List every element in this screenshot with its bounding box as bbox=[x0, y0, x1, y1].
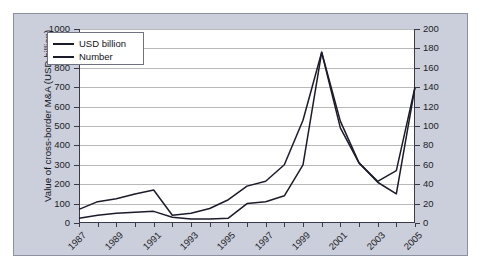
x-tick-mark bbox=[98, 223, 99, 227]
y-tick-label-left: 600 bbox=[37, 102, 70, 112]
y-tick-label-right: 160 bbox=[423, 63, 449, 73]
x-tick-mark bbox=[359, 223, 360, 227]
y-tick-label-right: 100 bbox=[423, 121, 449, 131]
x-tick-mark bbox=[116, 223, 117, 227]
x-tick-mark bbox=[210, 223, 211, 227]
x-tick-mark bbox=[191, 223, 192, 227]
series-line bbox=[79, 52, 415, 219]
x-tick-mark bbox=[247, 223, 248, 227]
legend: USD billion Number bbox=[47, 32, 144, 65]
x-tick-mark bbox=[415, 223, 416, 227]
x-tick-label: 1999 bbox=[285, 230, 312, 257]
x-tick-label: 2005 bbox=[397, 230, 424, 257]
x-tick-mark bbox=[340, 223, 341, 227]
legend-item-number: Number bbox=[53, 50, 113, 63]
y-tick-mark bbox=[415, 165, 420, 166]
y-tick-label-right: 0 bbox=[423, 218, 449, 228]
y-tick-mark bbox=[415, 204, 420, 205]
y-tick-label-left: 700 bbox=[37, 82, 70, 92]
y-tick-mark bbox=[415, 145, 420, 146]
y-tick-mark bbox=[415, 126, 420, 127]
x-tick-mark bbox=[322, 223, 323, 227]
x-tick-mark bbox=[378, 223, 379, 227]
x-tick-label: 2001 bbox=[323, 230, 350, 257]
y-tick-mark bbox=[74, 29, 79, 30]
x-tick-mark bbox=[284, 223, 285, 227]
y-tick-label-right: 120 bbox=[423, 102, 449, 112]
y-tick-mark bbox=[415, 48, 420, 49]
y-tick-label-right: 200 bbox=[423, 24, 449, 34]
y-tick-label-left: 300 bbox=[37, 160, 70, 170]
x-tick-label: 1991 bbox=[136, 230, 163, 257]
x-tick-label: 1987 bbox=[61, 230, 88, 257]
y-tick-label-right: 20 bbox=[423, 199, 449, 209]
y-tick-label-right: 140 bbox=[423, 82, 449, 92]
y-tick-mark bbox=[74, 87, 79, 88]
x-tick-label: 1995 bbox=[211, 230, 238, 257]
x-tick-label: 2003 bbox=[360, 230, 387, 257]
legend-line-icon bbox=[53, 43, 74, 45]
y-tick-mark bbox=[74, 165, 79, 166]
y-tick-mark bbox=[415, 184, 420, 185]
chart-figure: Value of cross-border M&A (USD billion) … bbox=[13, 13, 468, 256]
y-tick-mark bbox=[74, 184, 79, 185]
legend-label: USD billion bbox=[79, 39, 126, 49]
y-tick-label-right: 80 bbox=[423, 140, 449, 150]
x-tick-mark bbox=[303, 223, 304, 227]
y-tick-mark bbox=[74, 107, 79, 108]
y-tick-mark bbox=[415, 107, 420, 108]
x-tick-mark bbox=[79, 223, 80, 227]
y-tick-label-left: 0 bbox=[37, 218, 70, 228]
y-tick-mark bbox=[74, 145, 79, 146]
y-tick-label-left: 400 bbox=[37, 140, 70, 150]
series-line bbox=[79, 52, 415, 215]
x-tick-mark bbox=[266, 223, 267, 227]
legend-label: Number bbox=[79, 52, 113, 62]
y-tick-label-left: 100 bbox=[37, 199, 70, 209]
y-tick-mark bbox=[415, 87, 420, 88]
y-tick-mark bbox=[74, 126, 79, 127]
y-tick-label-right: 60 bbox=[423, 160, 449, 170]
x-tick-label: 1997 bbox=[248, 230, 275, 257]
legend-item-usd-billion: USD billion bbox=[53, 37, 126, 50]
x-tick-label: 1993 bbox=[173, 230, 200, 257]
x-tick-mark bbox=[172, 223, 173, 227]
x-tick-mark bbox=[228, 223, 229, 227]
x-tick-label: 1989 bbox=[99, 230, 126, 257]
legend-line-icon bbox=[53, 56, 74, 58]
y-tick-mark bbox=[415, 68, 420, 69]
y-tick-label-left: 200 bbox=[37, 179, 70, 189]
y-tick-label-right: 40 bbox=[423, 179, 449, 189]
y-tick-label-left: 500 bbox=[37, 121, 70, 131]
x-tick-mark bbox=[396, 223, 397, 227]
x-tick-mark bbox=[154, 223, 155, 227]
y-tick-mark bbox=[74, 204, 79, 205]
y-tick-mark bbox=[74, 68, 79, 69]
y-tick-label-right: 180 bbox=[423, 43, 449, 53]
y-tick-mark bbox=[415, 29, 420, 30]
x-tick-mark bbox=[135, 223, 136, 227]
